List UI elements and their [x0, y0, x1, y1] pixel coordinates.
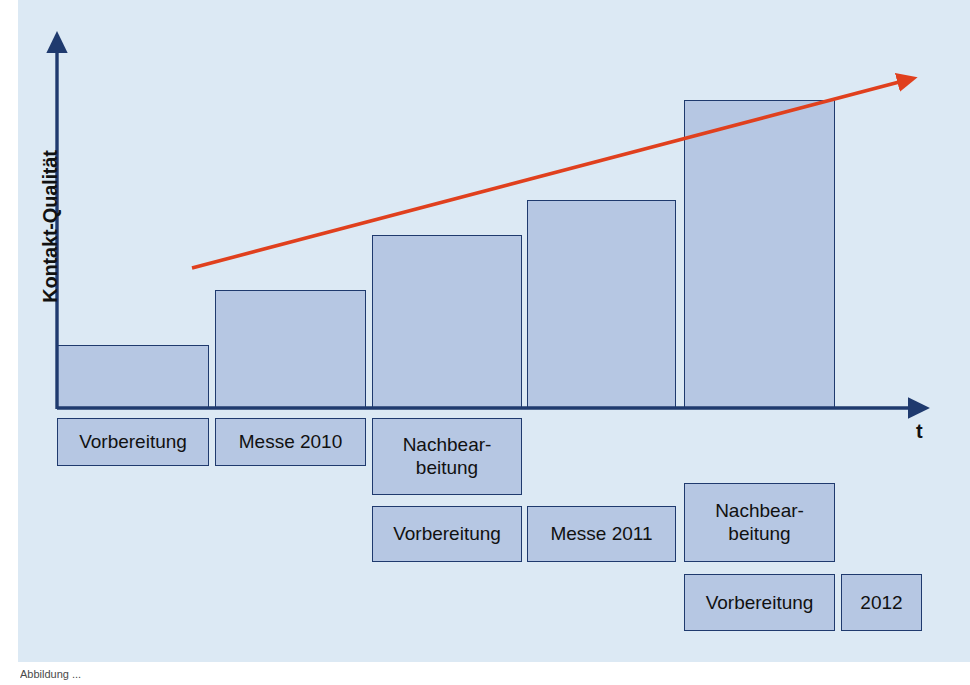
phase-box-nachbearbeitung-2010: Nachbear-beitung — [372, 418, 522, 495]
phase-box-label: Vorbereitung — [79, 431, 187, 452]
phase-box-label: Vorbereitung — [706, 592, 814, 613]
x-axis-label: t — [916, 420, 923, 443]
phase-box-jahr-2012: 2012 — [841, 574, 922, 631]
phase-box-label: Nachbear-beitung — [715, 500, 804, 546]
phase-box-label: Nachbear-beitung — [403, 434, 492, 480]
phase-box-messe-2010: Messe 2010 — [215, 418, 366, 466]
phase-box-vorbereitung-2010: Vorbereitung — [57, 418, 209, 466]
figure-caption: Abbildung ... — [20, 668, 81, 685]
phase-box-vorbereitung-2011: Vorbereitung — [372, 506, 522, 562]
phase-box-vorbereitung-2012: Vorbereitung — [684, 574, 835, 631]
figure-canvas: Kontakt-Qualität t VorbereitungMesse 201… — [0, 0, 970, 685]
phase-box-label: Messe 2010 — [239, 431, 343, 452]
phase-box-label: 2012 — [860, 592, 902, 613]
phase-box-label: Vorbereitung — [393, 523, 501, 544]
y-axis-label: Kontakt-Qualität — [39, 117, 62, 337]
phase-box-label: Messe 2011 — [550, 523, 652, 544]
phase-box-messe-2011: Messe 2011 — [527, 506, 676, 562]
trend-arrow — [192, 81, 903, 268]
phase-box-nachbearbeitung-2011: Nachbear-beitung — [684, 483, 835, 562]
